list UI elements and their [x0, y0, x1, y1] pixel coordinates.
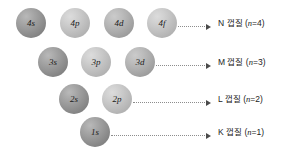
- shell-letter: L: [218, 94, 222, 104]
- orbital-label-4d: 4d: [115, 18, 124, 27]
- arrow-right-icon: [206, 100, 211, 106]
- arrow-right-icon: [206, 24, 211, 30]
- orbital-label-4f: 4f: [158, 18, 165, 27]
- orbital-shell-diagram: 4s4p4d4f3s3p3d2s2p1sN 껍질 (n=4)M 껍질 (n=3)…: [0, 0, 291, 152]
- orbital-label-3d: 3d: [136, 57, 145, 66]
- orbital-label-4p: 4p: [71, 18, 80, 27]
- dotted-leader-icon: [156, 65, 205, 66]
- shell-word: 껍질: [225, 94, 241, 104]
- quantum-number-value: =2: [250, 94, 260, 104]
- connector-line-M-shell: [156, 62, 211, 69]
- orbital-label-4s: 4s: [27, 18, 35, 27]
- arrow-right-icon: [206, 133, 211, 139]
- orbital-sphere-4d: 4d: [104, 8, 134, 38]
- orbital-sphere-3p: 3p: [81, 47, 111, 77]
- orbital-sphere-3s: 3s: [38, 47, 68, 77]
- shell-word: 껍질: [227, 57, 243, 67]
- shell-label-N: N 껍질 (n=4): [218, 19, 265, 28]
- orbital-sphere-4s: 4s: [16, 8, 46, 38]
- orbital-sphere-1s: 1s: [80, 117, 110, 147]
- arrow-right-icon: [206, 63, 211, 69]
- orbital-sphere-4p: 4p: [60, 8, 90, 38]
- orbital-label-3p: 3p: [92, 57, 101, 66]
- shell-word: 껍질: [227, 18, 243, 28]
- quantum-number-value: =1: [252, 127, 262, 137]
- orbital-sphere-2p: 2p: [102, 84, 132, 114]
- orbital-label-3s: 3s: [49, 57, 57, 66]
- shell-letter: N: [218, 18, 224, 28]
- connector-line-N-shell: [178, 23, 211, 30]
- shell-word: 껍질: [226, 127, 242, 137]
- connector-line-K-shell: [111, 132, 211, 139]
- dotted-leader-icon: [178, 26, 205, 27]
- orbital-label-1s: 1s: [91, 127, 99, 136]
- shell-label-K: K 껍질 (n=1): [218, 128, 264, 137]
- quantum-number-value: =3: [253, 57, 263, 67]
- dotted-leader-icon: [133, 102, 205, 103]
- shell-label-M: M 껍질 (n=3): [218, 58, 265, 67]
- dotted-leader-icon: [111, 135, 205, 136]
- orbital-label-2s: 2s: [70, 94, 78, 103]
- shell-label-L: L 껍질 (n=2): [218, 95, 263, 104]
- orbital-sphere-3d: 3d: [125, 47, 155, 77]
- orbital-label-2p: 2p: [113, 94, 122, 103]
- shell-letter: K: [218, 127, 224, 137]
- orbital-sphere-4f: 4f: [147, 8, 177, 38]
- quantum-number-value: =4: [252, 18, 262, 28]
- connector-line-L-shell: [133, 99, 211, 106]
- orbital-sphere-2s: 2s: [59, 84, 89, 114]
- shell-letter: M: [218, 57, 225, 67]
